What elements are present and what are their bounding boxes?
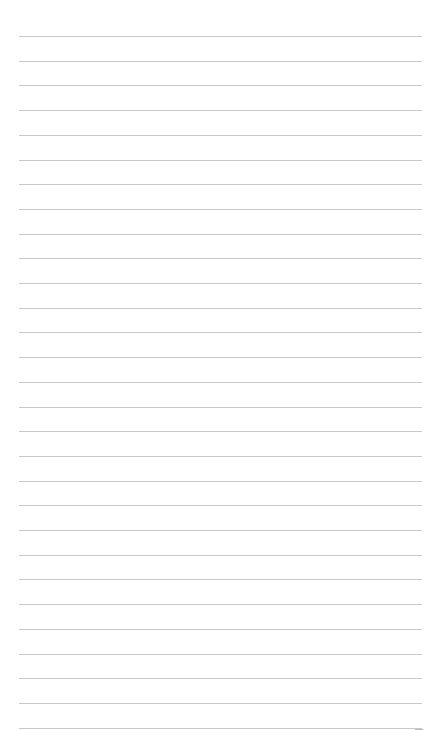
ruled-line [19,678,422,679]
ruled-line [19,85,422,86]
ruled-line [19,110,422,111]
ruled-line [19,703,422,704]
ruled-line [19,555,422,556]
ruled-line [19,234,422,235]
ruled-line [19,357,422,358]
ruled-line [19,579,422,580]
ruled-line [19,135,422,136]
ruled-line [19,456,422,457]
ruled-line [19,258,422,259]
ruled-line [19,61,422,62]
ruled-line [19,407,422,408]
ruled-line [19,505,422,506]
ruled-line [19,283,422,284]
ruled-line [19,530,422,531]
corner-mark [415,729,423,730]
ruled-line [19,431,422,432]
ruled-line [19,184,422,185]
lined-page [0,0,442,731]
ruled-line [19,629,422,630]
ruled-line [19,382,422,383]
ruled-line [19,728,422,729]
ruled-line [19,481,422,482]
ruled-line [19,604,422,605]
ruled-line [19,209,422,210]
ruled-line [19,160,422,161]
ruled-line [19,36,422,37]
ruled-line [19,654,422,655]
ruled-line [19,308,422,309]
ruled-line [19,332,422,333]
